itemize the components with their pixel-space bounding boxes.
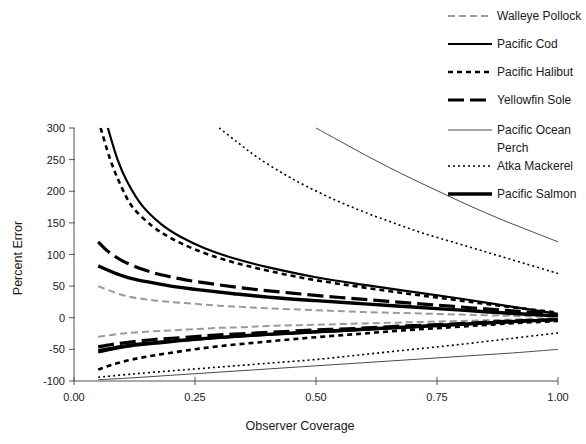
legend-label: Pacific Salmon bbox=[497, 187, 576, 201]
legend-item[interactable]: Yellowfin Sole bbox=[448, 93, 572, 107]
legend-item[interactable]: Walleye Pollock bbox=[448, 9, 582, 23]
legend-item[interactable]: Pacific Cod bbox=[448, 37, 558, 51]
series-curve bbox=[98, 320, 558, 351]
x-tick-label-group: 0.000.250.500.751.00 bbox=[63, 391, 568, 403]
x-tick-label: 0.25 bbox=[184, 391, 205, 403]
legend-item[interactable]: Perch bbox=[497, 141, 528, 155]
y-tick-label: 200 bbox=[47, 185, 65, 197]
y-tick-label: 300 bbox=[47, 122, 65, 134]
y-tick-label: 50 bbox=[53, 280, 65, 292]
series-curve bbox=[98, 320, 558, 353]
series-curve bbox=[98, 349, 558, 379]
legend-label: Pacific Halibut bbox=[497, 65, 574, 79]
y-tick-label: 250 bbox=[47, 154, 65, 166]
x-tick-label: 0.00 bbox=[63, 391, 84, 403]
legend: Walleye PollockPacific CodPacific Halibu… bbox=[448, 9, 582, 201]
y-tick-label-group: 300250200150100500-50-100 bbox=[43, 122, 65, 387]
percent-error-vs-observer-coverage-chart: 300250200150100500-50-100 0.000.250.500.… bbox=[0, 0, 586, 444]
legend-label: Yellowfin Sole bbox=[497, 93, 572, 107]
x-tick-label: 1.00 bbox=[547, 391, 568, 403]
legend-label: Pacific Ocean bbox=[497, 123, 571, 137]
legend-item[interactable]: Atka Mackerel bbox=[448, 159, 573, 173]
y-tick-label: 100 bbox=[47, 249, 65, 261]
chart-figure: 300250200150100500-50-100 0.000.250.500.… bbox=[0, 0, 586, 444]
legend-item[interactable]: Pacific Salmon bbox=[448, 187, 576, 201]
y-tick-label: 150 bbox=[47, 217, 65, 229]
legend-item[interactable]: Pacific Halibut bbox=[448, 65, 574, 79]
y-tick-label: -50 bbox=[49, 343, 65, 355]
x-tick-label: 0.75 bbox=[426, 391, 447, 403]
legend-label: Pacific Cod bbox=[497, 37, 558, 51]
x-axis-title: Observer Coverage bbox=[245, 419, 354, 433]
y-tick-label: -100 bbox=[43, 375, 65, 387]
y-axis-title: Percent Error bbox=[11, 221, 25, 295]
legend-label: Walleye Pollock bbox=[497, 9, 582, 23]
legend-item[interactable]: Pacific Ocean bbox=[448, 123, 571, 137]
x-tick-label: 0.50 bbox=[305, 391, 326, 403]
y-tick-label: 0 bbox=[59, 312, 65, 324]
legend-label: Perch bbox=[497, 141, 528, 155]
legend-label: Atka Mackerel bbox=[497, 159, 573, 173]
